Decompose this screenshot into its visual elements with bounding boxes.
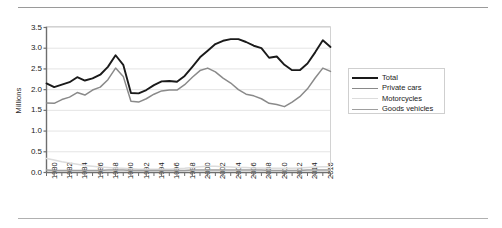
series-line-private-cars: [47, 68, 331, 107]
legend-label: Goods vehicles: [382, 105, 433, 113]
legend-swatch-line-icon: [352, 98, 378, 99]
legend-item-private-cars[interactable]: Private cars: [352, 83, 422, 94]
legend-label: Total: [382, 74, 398, 82]
legend-swatch-line-icon: [352, 77, 378, 79]
legend-item-total[interactable]: Total: [352, 72, 398, 83]
series-line-motorcycles: [47, 158, 331, 169]
legend-label: Private cars: [382, 84, 422, 92]
legend-item-goods-vehicles[interactable]: Goods vehicles: [352, 104, 433, 115]
legend-label: Motorcycles: [382, 95, 422, 103]
legend-swatch-line-icon: [352, 109, 378, 110]
figure: Millions 0.00.51.01.52.02.53.03.5 198019…: [0, 0, 502, 228]
series-line-total: [47, 39, 331, 93]
chart-legend: TotalPrivate carsMotorcyclesGoods vehicl…: [348, 68, 445, 114]
legend-swatch-line-icon: [352, 88, 378, 89]
legend-item-motorcycles[interactable]: Motorcycles: [352, 93, 422, 104]
